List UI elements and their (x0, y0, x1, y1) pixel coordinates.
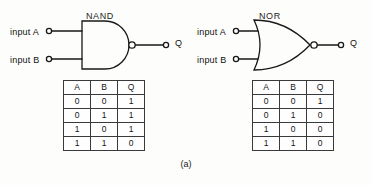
table-header-row: A B Q (64, 81, 145, 95)
cell-q: 0 (307, 137, 334, 151)
cell-a: 1 (64, 137, 91, 151)
cell-b: 1 (280, 137, 307, 151)
column-header-a: A (64, 81, 91, 95)
logic-gate-figure: NAND input A input B Q (0, 0, 372, 185)
cell-a: 0 (253, 109, 280, 123)
cell-q: 1 (118, 123, 145, 137)
nand-gate-body (82, 21, 129, 69)
table-row: 1 0 1 (64, 123, 145, 137)
column-header-b: B (280, 81, 307, 95)
nand-inversion-bubble (129, 42, 135, 48)
cell-q: 1 (307, 95, 334, 109)
column-header-q: Q (118, 81, 145, 95)
nor-output-terminal (338, 42, 343, 47)
cell-a: 1 (64, 123, 91, 137)
cell-a: 0 (64, 109, 91, 123)
cell-q: 0 (307, 123, 334, 137)
nor-input-b-terminal (233, 56, 238, 61)
cell-b: 1 (91, 109, 118, 123)
nor-gate-drawing (186, 0, 372, 78)
cell-q: 1 (118, 109, 145, 123)
nor-inversion-bubble (311, 42, 317, 48)
cell-b: 0 (280, 95, 307, 109)
column-header-b: B (91, 81, 118, 95)
cell-b: 0 (91, 123, 118, 137)
table-row: 1 0 0 (253, 123, 334, 137)
nand-gate-drawing (0, 0, 186, 78)
cell-a: 0 (253, 95, 280, 109)
column-header-q: Q (307, 81, 334, 95)
cell-q: 1 (118, 95, 145, 109)
nand-truth-table: A B Q 0 0 1 0 1 1 1 0 1 (63, 80, 145, 151)
nor-truth-table: A B Q 0 0 1 0 1 0 1 0 0 (252, 80, 334, 151)
nand-output-terminal (163, 42, 168, 47)
figure-caption: (a) (0, 159, 372, 169)
cell-q: 0 (307, 109, 334, 123)
cell-q: 0 (118, 137, 145, 151)
table-header-row: A B Q (253, 81, 334, 95)
table-row: 0 1 0 (253, 109, 334, 123)
cell-a: 0 (64, 95, 91, 109)
nor-gate-body (254, 20, 310, 70)
nand-gate-block: NAND input A input B Q (0, 0, 186, 160)
cell-a: 1 (253, 137, 280, 151)
table-row: 0 0 1 (253, 95, 334, 109)
table-row: 1 1 0 (253, 137, 334, 151)
nand-input-a-terminal (46, 28, 51, 33)
cell-b: 1 (280, 109, 307, 123)
table-row: 0 0 1 (64, 95, 145, 109)
cell-b: 0 (91, 95, 118, 109)
column-header-a: A (253, 81, 280, 95)
table-row: 1 1 0 (64, 137, 145, 151)
nand-input-b-terminal (46, 56, 51, 61)
cell-b: 0 (280, 123, 307, 137)
cell-b: 1 (91, 137, 118, 151)
nor-gate-block: NOR input A input B Q (186, 0, 372, 160)
nor-input-a-terminal (233, 28, 238, 33)
table-row: 0 1 1 (64, 109, 145, 123)
cell-a: 1 (253, 123, 280, 137)
